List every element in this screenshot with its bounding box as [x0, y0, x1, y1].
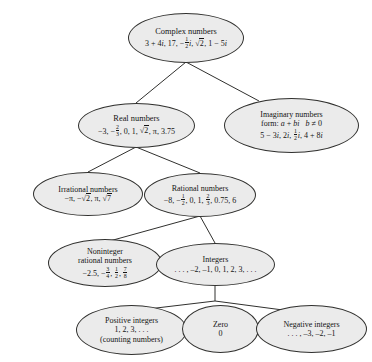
node-positive-title: Positive integers: [105, 316, 158, 325]
node-noninteger-title-line1: Noninteger: [87, 247, 123, 256]
node-real-numbers[interactable]: Real numbers −3, −23, 0, 1, √2, π, 3.75: [78, 103, 195, 148]
node-zero-value: 0: [219, 329, 223, 338]
node-negative-title: Negative integers: [283, 320, 339, 329]
number-classification-diagram: Complex numbers 3 + 4i, 17, −12i, √2, 1 …: [0, 0, 372, 362]
node-complex-title: Complex numbers: [155, 27, 217, 37]
node-complex-values: 3 + 4i, 17, −12i, √2, 1 − 5i: [145, 36, 227, 49]
node-zero[interactable]: Zero 0: [182, 305, 259, 353]
node-noninteger-rational-numbers[interactable]: Noninteger rational numbers −2.5, −34, 1…: [48, 239, 162, 287]
node-integers-values: . . . , –2, –1, 0, 1, 2, 3, . . .: [175, 265, 257, 274]
node-negative-integers[interactable]: Negative integers . . . , –3, –2, –1: [256, 305, 367, 353]
node-integers[interactable]: Integers . . . , –2, –1, 0, 1, 2, 3, . .…: [156, 243, 275, 286]
node-rational-values: −8, −12, 0, 1, 23, 0.75, 6: [164, 193, 237, 206]
node-rational-numbers[interactable]: Rational numbers −8, −12, 0, 1, 23, 0.75…: [144, 173, 256, 217]
node-positive-integers[interactable]: Positive integers 1, 2, 3, . . . (counti…: [76, 305, 187, 355]
node-noninteger-title-line2: rational numbers: [78, 256, 132, 265]
node-negative-values: . . . , –3, –2, –1: [288, 329, 336, 338]
node-zero-title: Zero: [213, 320, 228, 329]
node-irrational-numbers[interactable]: Irrational numbers −π, −√2, π, √7: [33, 172, 143, 216]
node-positive-values: 1, 2, 3, . . .: [115, 325, 149, 334]
node-integers-title: Integers: [203, 255, 229, 264]
node-real-values: −3, −23, 0, 1, √2, π, 3.75: [98, 124, 175, 137]
node-rational-title: Rational numbers: [172, 184, 229, 193]
node-imaginary-title: Imaginary numbers: [260, 110, 322, 119]
node-positive-note: (counting numbers): [100, 335, 163, 344]
node-irrational-values: −π, −√2, π, √7: [64, 194, 111, 203]
node-real-title: Real numbers: [113, 114, 159, 124]
node-imaginary-form: form: a + bi b ≠ 0: [261, 119, 322, 128]
node-noninteger-values: −2.5, −34, 12, 78: [82, 266, 127, 279]
node-complex-numbers[interactable]: Complex numbers 3 + 4i, 17, −12i, √2, 1 …: [128, 13, 244, 63]
node-imaginary-numbers[interactable]: Imaginary numbers form: a + bi b ≠ 0 5 −…: [224, 98, 359, 153]
node-imaginary-values: 5 − 3i, 2i, 12i, 4 + 8i: [260, 128, 323, 141]
